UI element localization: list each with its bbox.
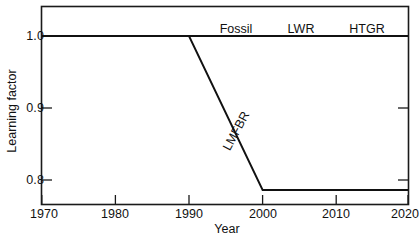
x-tick-label-1980: 1980 xyxy=(101,207,129,221)
annotation-htgr: HTGR xyxy=(349,22,384,36)
x-tick-label-2000: 2000 xyxy=(249,207,277,221)
y-axis-title: Learning factor xyxy=(5,51,19,171)
x-axis-title: Year xyxy=(0,222,420,236)
x-tick-label-2020: 2020 xyxy=(391,207,419,221)
annotation-fossil: Fossil xyxy=(220,22,253,36)
y-tick-label-1-0: 1.0 xyxy=(26,29,44,43)
x-tick-label-1990: 1990 xyxy=(175,207,203,221)
series-line-lmfbr xyxy=(42,36,408,190)
x-tick-label-1970: 1970 xyxy=(30,207,58,221)
y-tick-label-0-9: 0.9 xyxy=(26,101,44,115)
y-tick-label-0-8: 0.8 xyxy=(26,173,44,187)
x-tick-marks xyxy=(42,195,408,204)
annotation-lwr: LWR xyxy=(288,22,315,36)
y-tick-marks-right xyxy=(398,108,408,180)
x-tick-label-2010: 2010 xyxy=(322,207,350,221)
chart-figure: 1970 1980 1990 2000 2010 2020 1.0 0.9 0.… xyxy=(0,0,420,238)
